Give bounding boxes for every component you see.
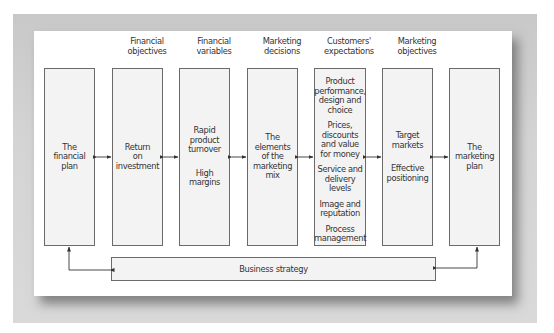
arrow-strategy-financial-plan: [69, 247, 110, 270]
arrow-strategy-marketing-plan: [437, 247, 477, 268]
connectors: [0, 0, 554, 333]
